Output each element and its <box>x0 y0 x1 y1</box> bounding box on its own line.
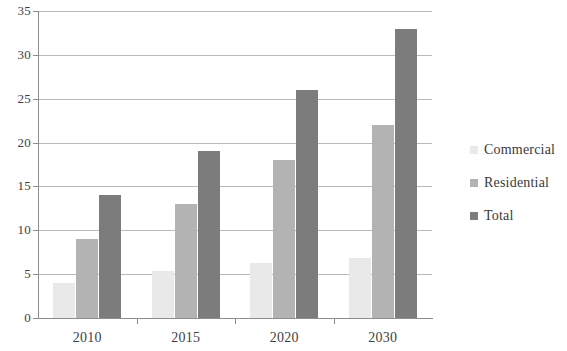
y-axis-label-wrap: 25 <box>0 92 31 105</box>
bar-residential-2030 <box>372 125 394 318</box>
y-axis-label: 30 <box>1 48 31 61</box>
y-axis-label: 25 <box>1 92 31 105</box>
bar-group <box>152 11 220 318</box>
legend-label: Total <box>484 208 514 224</box>
bar-residential-2020 <box>273 160 295 318</box>
chart-legend: CommercialResidentialTotal <box>470 133 565 232</box>
y-axis-label: 15 <box>1 179 31 192</box>
y-axis-label: 0 <box>1 311 31 324</box>
y-axis-label: 10 <box>1 223 31 236</box>
x-axis-tick <box>235 319 236 324</box>
bar-total-2030 <box>395 29 417 318</box>
y-axis-label-wrap: 5 <box>0 267 31 280</box>
legend-label: Commercial <box>484 142 555 158</box>
plot-area <box>38 11 432 318</box>
legend-swatch-icon <box>470 179 478 187</box>
legend-label: Residential <box>484 175 549 191</box>
x-axis-label-2010: 2010 <box>47 330 127 346</box>
y-axis-label: 5 <box>1 267 31 280</box>
legend-item-total[interactable]: Total <box>470 199 565 232</box>
y-axis-label-wrap: 10 <box>0 223 31 236</box>
legend-swatch-icon <box>470 146 478 154</box>
y-axis-label: 20 <box>1 136 31 149</box>
bar-chart: 05101520253035 2010201520202030 Commerci… <box>0 0 567 351</box>
bar-residential-2015 <box>175 204 197 318</box>
legend-swatch-icon <box>470 212 478 220</box>
bar-group <box>349 11 417 318</box>
x-axis-label-2030: 2030 <box>343 330 423 346</box>
bar-commercial-2015 <box>152 271 174 318</box>
y-axis-label-wrap: 30 <box>0 48 31 61</box>
legend-item-commercial[interactable]: Commercial <box>470 133 565 166</box>
x-axis-tick <box>334 319 335 324</box>
legend-item-residential[interactable]: Residential <box>470 166 565 199</box>
bar-group <box>53 11 121 318</box>
bar-residential-2010 <box>76 239 98 318</box>
y-axis-label-wrap: 0 <box>0 311 31 324</box>
x-axis-tick <box>137 319 138 324</box>
bar-commercial-2020 <box>250 263 272 318</box>
y-axis-label-wrap: 15 <box>0 179 31 192</box>
bar-total-2015 <box>198 151 220 318</box>
y-axis-label-wrap: 35 <box>0 4 31 17</box>
x-axis-label-2020: 2020 <box>244 330 324 346</box>
y-axis-label: 35 <box>1 4 31 17</box>
y-axis-label-wrap: 20 <box>0 136 31 149</box>
bar-commercial-2030 <box>349 258 371 318</box>
bar-total-2020 <box>296 90 318 318</box>
bar-commercial-2010 <box>53 283 75 318</box>
bar-group <box>250 11 318 318</box>
bar-total-2010 <box>99 195 121 318</box>
x-axis-label-2015: 2015 <box>146 330 226 346</box>
